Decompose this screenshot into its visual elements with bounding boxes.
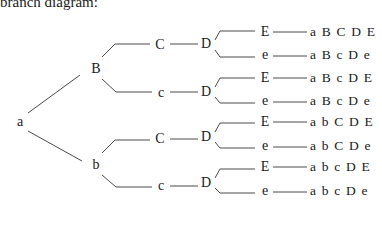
edge-a-b xyxy=(28,131,82,161)
node-level4: E xyxy=(261,71,270,85)
edge-b-c xyxy=(102,175,152,187)
node-level4: e xyxy=(262,139,268,153)
outcome-label: a b c D E xyxy=(310,160,371,174)
node-level2: C xyxy=(155,38,164,52)
edge-D2-E xyxy=(215,78,255,87)
edge-D1-E xyxy=(215,31,255,40)
edge-B-C xyxy=(102,44,150,57)
outcome-label: a B C D E xyxy=(310,25,376,39)
outcome-label: a B c D e xyxy=(310,94,371,108)
node-level2: c xyxy=(158,86,164,100)
edge-D3-E xyxy=(215,123,255,132)
outcome-label: a b C D E xyxy=(310,115,374,129)
node-level4: E xyxy=(261,115,270,129)
edge-a-B xyxy=(28,75,80,113)
node-level1: B xyxy=(91,62,100,76)
node-level2: c xyxy=(158,179,164,193)
node-level2: C xyxy=(155,132,164,146)
node-level3: D xyxy=(201,85,211,99)
edge-D2-e xyxy=(215,97,255,103)
node-level4: e xyxy=(262,94,268,108)
edge-D3-e xyxy=(215,142,255,148)
edge-b-C xyxy=(102,140,150,153)
node-level4: e xyxy=(262,184,268,198)
outcome-label: a b C D e xyxy=(310,139,372,153)
outcome-label: a B c D e xyxy=(310,48,371,62)
node-level4: E xyxy=(261,25,270,39)
edge-D4-E xyxy=(215,169,255,178)
node-root: a xyxy=(17,115,23,129)
node-level1: b xyxy=(93,158,100,172)
edge-B-c xyxy=(102,79,152,92)
node-level3: D xyxy=(201,130,211,144)
node-level4: e xyxy=(262,48,268,62)
edge-D1-e xyxy=(215,50,255,57)
node-level4: E xyxy=(261,160,270,174)
node-level3: D xyxy=(201,176,211,190)
edge-D4-e xyxy=(215,188,255,193)
outcome-label: a B c D E xyxy=(310,71,373,85)
outcome-label: a b c D e xyxy=(310,184,369,198)
node-level3: D xyxy=(201,37,211,51)
